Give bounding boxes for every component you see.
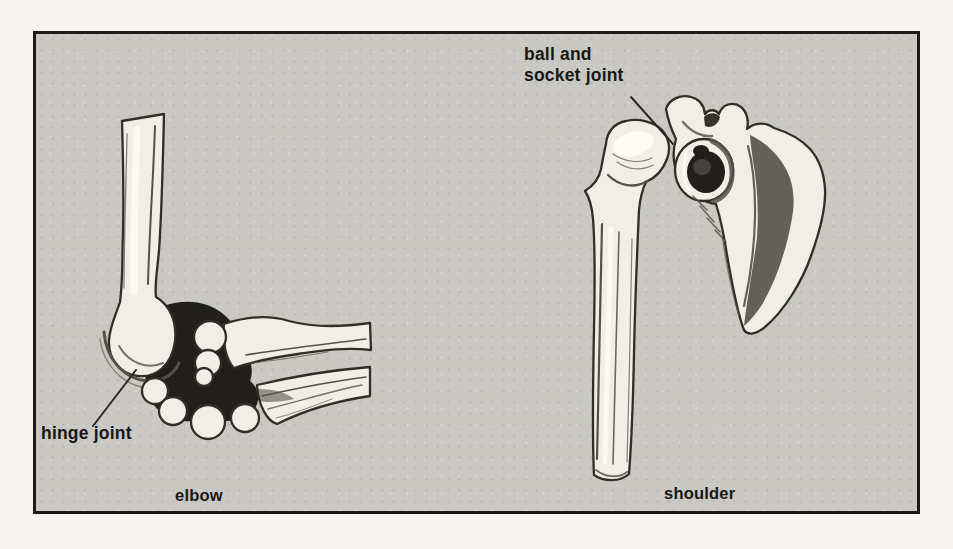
elbow-joint-drawing <box>93 114 371 439</box>
elbow-humerus-highlight <box>134 130 137 292</box>
elbow-radius-bone <box>223 317 371 368</box>
ball-and-socket-label-line1: ball and <box>524 44 624 65</box>
hinge-joint-label: hinge joint <box>41 423 132 444</box>
joints-illustration <box>36 34 917 511</box>
glenoid-cavity-notch <box>693 145 709 157</box>
ulna-olecranon-lobe-2 <box>159 397 187 425</box>
ulna-olecranon-lobe-3 <box>191 405 225 439</box>
elbow-humerus-bone <box>109 114 175 376</box>
ulna-olecranon-lobe-4 <box>231 404 259 432</box>
hinge-joint-leader-line <box>93 370 136 426</box>
radius-head-lobe-3 <box>195 368 213 386</box>
ball-and-socket-label-line2: socket joint <box>524 65 624 86</box>
elbow-caption: elbow <box>175 485 223 506</box>
radius-head-lobe-1 <box>194 321 226 353</box>
scanned-figure-page: ball and socket joint hinge joint elbow … <box>0 0 953 549</box>
figure-panel <box>33 31 920 514</box>
shoulder-joint-drawing <box>585 96 825 480</box>
ball-and-socket-joint-label: ball and socket joint <box>524 44 624 86</box>
shoulder-caption: shoulder <box>664 483 735 504</box>
glenoid-cavity-texture <box>693 159 711 175</box>
